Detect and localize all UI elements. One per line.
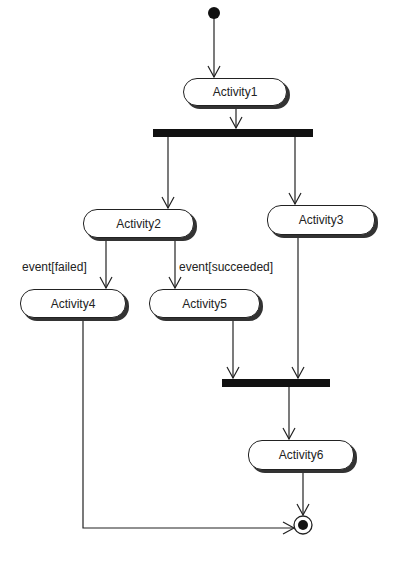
activity-label: Activity4 xyxy=(51,297,96,311)
activity-label: Activity5 xyxy=(182,297,227,311)
activity-node-1[interactable]: Activity1 xyxy=(183,78,287,106)
initial-node-icon xyxy=(208,7,220,19)
join-bar xyxy=(222,379,330,387)
activity-label: Activity6 xyxy=(279,448,324,462)
fork-bar xyxy=(153,129,313,137)
final-node-icon xyxy=(294,516,312,534)
activity-label: Activity2 xyxy=(116,217,161,231)
activity-node-4[interactable]: Activity4 xyxy=(20,289,126,318)
guard-label-failed: event[failed] xyxy=(22,260,87,274)
activity-label: Activity3 xyxy=(299,213,344,227)
flow-a4-final xyxy=(83,318,294,528)
activity-node-3[interactable]: Activity3 xyxy=(267,205,375,235)
activity-node-5[interactable]: Activity5 xyxy=(149,289,260,318)
activity-label: Activity1 xyxy=(213,85,258,99)
activity-node-6[interactable]: Activity6 xyxy=(248,440,354,470)
activity-node-2[interactable]: Activity2 xyxy=(83,209,194,238)
guard-label-succeeded: event[succeeded] xyxy=(179,260,273,274)
